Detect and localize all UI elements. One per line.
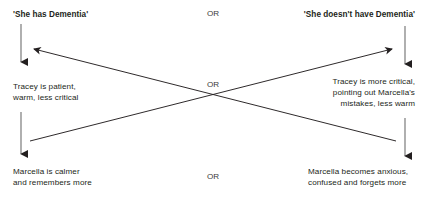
outcome-right-marcella: Marcella becomes anxious, confused and f…	[308, 166, 408, 188]
outcome-right-tracey: Tracey is more critical, pointing out Ma…	[332, 76, 415, 110]
or-label-top: OR	[193, 9, 233, 19]
or-label-bottom: OR	[193, 172, 233, 182]
outcome-left-tracey: Tracey is patient, warm, less critical	[13, 81, 78, 103]
heading-left-belief: 'She has Dementia'	[13, 9, 88, 20]
outcome-left-marcella: Marcella is calmer and remembers more	[13, 166, 92, 188]
heading-right-belief: 'She doesn't have Dementia'	[304, 9, 415, 20]
diagram-canvas: 'She has Dementia' 'She doesn't have Dem…	[0, 0, 427, 201]
or-label-middle: OR	[193, 80, 233, 90]
